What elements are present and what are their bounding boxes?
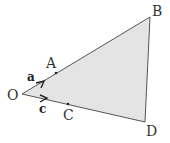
label-d: D <box>146 123 157 139</box>
label-vector-c: c <box>39 102 46 116</box>
point-c-marker <box>67 103 70 106</box>
geometry-diagram: O A B C D a c <box>0 0 170 143</box>
point-a-marker <box>55 72 58 75</box>
label-b: B <box>152 3 162 19</box>
label-o: O <box>7 87 18 103</box>
label-vector-a: a <box>27 70 35 84</box>
label-c: C <box>63 107 74 123</box>
label-a: A <box>45 55 57 71</box>
